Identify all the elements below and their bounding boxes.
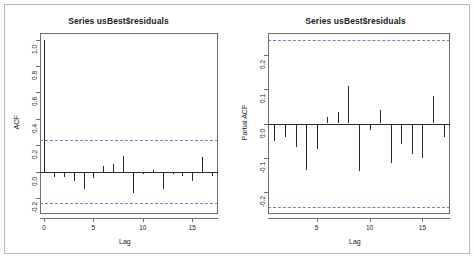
bar-lag-11 bbox=[380, 110, 381, 124]
bar-lag-17 bbox=[212, 172, 213, 176]
bar-lag-11 bbox=[153, 170, 154, 172]
xtick-mark bbox=[370, 218, 371, 222]
bar-lag-10 bbox=[143, 172, 144, 175]
confidence-band-lower bbox=[40, 203, 218, 204]
xtick-label: 10 bbox=[360, 224, 380, 231]
bar-lag-1 bbox=[274, 124, 275, 141]
bar-lag-13 bbox=[401, 124, 402, 144]
bar-lag-6 bbox=[103, 166, 104, 171]
xtick-label: 15 bbox=[412, 224, 432, 231]
bar-lag-4 bbox=[306, 124, 307, 170]
ytick-label: 0.0 bbox=[31, 171, 38, 191]
bar-lag-9 bbox=[133, 172, 134, 193]
bar-lag-14 bbox=[182, 172, 183, 177]
bar-lag-16 bbox=[202, 157, 203, 172]
bar-lag-7 bbox=[338, 112, 339, 124]
bar-lag-10 bbox=[370, 124, 371, 131]
ytick-label: -0.1 bbox=[259, 157, 266, 177]
acf-yaxis-label: ACF bbox=[13, 102, 20, 142]
pacf-yaxis-label: Partial ACF bbox=[241, 102, 248, 142]
xtick-mark bbox=[44, 218, 45, 222]
bar-lag-14 bbox=[412, 124, 413, 155]
ytick-label: 0.0 bbox=[259, 123, 266, 143]
bar-lag-4 bbox=[84, 172, 85, 189]
ytick-label: -0.2 bbox=[259, 191, 266, 211]
bar-lag-3 bbox=[74, 172, 75, 181]
confidence-band-lower bbox=[268, 207, 450, 208]
bar-lag-13 bbox=[173, 172, 174, 174]
bar-lag-12 bbox=[163, 172, 164, 189]
xtick-mark bbox=[422, 218, 423, 222]
ytick-label: 0.2 bbox=[259, 55, 266, 75]
bar-lag-7 bbox=[113, 164, 114, 172]
bar-lag-5 bbox=[93, 172, 94, 179]
confidence-band-upper bbox=[40, 140, 218, 141]
bar-lag-15 bbox=[422, 124, 423, 158]
bar-lag-3 bbox=[296, 124, 297, 148]
bar-lag-15 bbox=[192, 172, 193, 181]
bar-lag-8 bbox=[123, 156, 124, 172]
xtick-label: 5 bbox=[83, 224, 103, 231]
xtick-label: 10 bbox=[133, 224, 153, 231]
bar-lag-2 bbox=[64, 172, 65, 177]
xtick-label: 0 bbox=[34, 224, 54, 231]
acf-plot-title: Series usBest$residuals bbox=[0, 16, 237, 26]
bar-lag-9 bbox=[359, 124, 360, 172]
xtick-mark bbox=[317, 218, 318, 222]
bar-lag-1 bbox=[54, 172, 55, 177]
pacf-xaxis-label: Lag bbox=[349, 238, 361, 245]
ytick-label: 1.0 bbox=[31, 39, 38, 59]
ytick-label: 0.4 bbox=[31, 118, 38, 138]
ytick-label: 0.1 bbox=[259, 89, 266, 109]
pacf-plot-title: Series usBest$residuals bbox=[237, 16, 474, 26]
xtick-mark bbox=[143, 218, 144, 222]
bar-lag-2 bbox=[285, 124, 286, 138]
acf-xaxis-label: Lag bbox=[119, 238, 131, 245]
bar-lag-16 bbox=[433, 96, 434, 123]
xtick-mark bbox=[93, 218, 94, 222]
bar-lag-0 bbox=[44, 40, 45, 172]
bar-lag-6 bbox=[327, 117, 328, 124]
bar-lag-8 bbox=[348, 86, 349, 124]
bar-lag-12 bbox=[391, 124, 392, 163]
xtick-mark bbox=[192, 218, 193, 222]
acf-plot-frame bbox=[40, 33, 218, 214]
confidence-band-upper bbox=[268, 40, 450, 41]
ytick-label: 0.8 bbox=[31, 66, 38, 86]
bar-lag-17 bbox=[444, 124, 445, 138]
bar-lag-5 bbox=[317, 124, 318, 150]
ytick-label: -0.2 bbox=[31, 198, 38, 218]
acf-panel: Series usBest$residuals 1.00.80.60.40.20… bbox=[0, 0, 237, 258]
ytick-label: 0.6 bbox=[31, 92, 38, 112]
xtick-label: 5 bbox=[307, 224, 327, 231]
xtick-label: 15 bbox=[182, 224, 202, 231]
ytick-label: 0.2 bbox=[31, 145, 38, 165]
figure-canvas: Series usBest$residuals 1.00.80.60.40.20… bbox=[0, 0, 474, 258]
